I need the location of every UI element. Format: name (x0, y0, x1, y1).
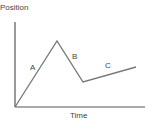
x-axis-label: Time (70, 112, 87, 120)
position-time-chart: Position Time A B C (0, 0, 152, 130)
segment-a-label: A (30, 64, 35, 72)
segment-b-label: B (72, 53, 77, 61)
position-line (15, 41, 136, 107)
y-axis-label: Position (0, 4, 28, 12)
segment-c-label: C (105, 62, 111, 70)
